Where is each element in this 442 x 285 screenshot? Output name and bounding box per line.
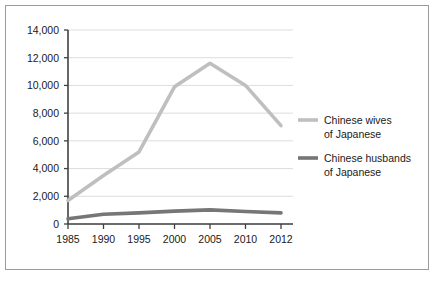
y-axis-label: 0 bbox=[53, 218, 59, 230]
y-axis-ticks: 02,0004,0006,0008,00010,00012,00014,000 bbox=[27, 24, 68, 230]
legend-label-2-line2: of Japanese bbox=[324, 166, 381, 178]
y-axis-label: 2,000 bbox=[33, 190, 59, 202]
series-line-1 bbox=[68, 63, 281, 200]
y-axis-label: 4,000 bbox=[33, 162, 59, 174]
line-chart: 02,0004,0006,0008,00010,00012,00014,0001… bbox=[6, 6, 430, 269]
legend-label-1: Chinese wives bbox=[324, 114, 392, 126]
chart-svg: 02,0004,0006,0008,00010,00012,00014,0001… bbox=[6, 6, 430, 269]
y-axis-label: 6,000 bbox=[33, 135, 59, 147]
y-axis-label: 14,000 bbox=[27, 24, 59, 36]
y-axis-label: 10,000 bbox=[27, 79, 59, 91]
y-axis-label: 12,000 bbox=[27, 52, 59, 64]
legend-label-1-line2: of Japanese bbox=[324, 128, 381, 140]
x-axis-label: 1990 bbox=[92, 233, 116, 245]
x-axis-label: 1985 bbox=[56, 233, 80, 245]
series-line-2 bbox=[68, 210, 281, 219]
x-axis-label: 1995 bbox=[127, 233, 151, 245]
y-axis-label: 8,000 bbox=[33, 107, 59, 119]
legend-label-2: Chinese husbands bbox=[324, 152, 411, 164]
x-axis-label: 2000 bbox=[163, 233, 187, 245]
x-axis-ticks: 1985199019952000200520102012 bbox=[56, 224, 293, 245]
x-axis-label: 2012 bbox=[269, 233, 293, 245]
legend: Chinese wivesof JapaneseChinese husbands… bbox=[298, 114, 411, 178]
gridlines bbox=[68, 30, 293, 224]
x-axis-label: 2010 bbox=[234, 233, 258, 245]
x-axis-label: 2005 bbox=[198, 233, 222, 245]
chart-frame: 02,0004,0006,0008,00010,00012,00014,0001… bbox=[5, 5, 429, 270]
